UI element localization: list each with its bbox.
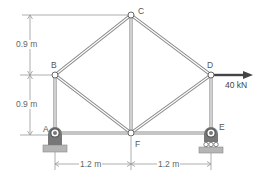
dimension-label-cb: 0.9 m — [15, 40, 38, 49]
joint-F — [128, 130, 134, 136]
dimension-label-fe: 1.2 m — [157, 160, 180, 169]
truss-drawing — [0, 0, 270, 185]
joint-label-a: A — [43, 125, 49, 134]
dimension-label-af: 1.2 m — [79, 160, 102, 169]
joint-label-d: D — [207, 61, 213, 70]
dimension-label-ba: 0.9 m — [15, 100, 38, 109]
joint-B — [52, 72, 58, 78]
truss-diagram: A B C D E F 40 kN 0.9 m 0.9 m 1.2 m 1.2 … — [0, 0, 270, 185]
truss-members-outline — [55, 15, 211, 133]
load-label: 40 kN — [225, 81, 247, 90]
joint-label-c: C — [138, 7, 144, 16]
joint-label-b: B — [51, 61, 57, 70]
truss-members-inner — [55, 15, 211, 133]
joint-label-f: F — [135, 140, 140, 149]
joint-markers — [52, 12, 214, 136]
load-arrow-icon — [214, 71, 253, 79]
joint-label-e: E — [219, 123, 225, 132]
joint-C — [128, 12, 134, 18]
joint-D — [208, 72, 214, 78]
